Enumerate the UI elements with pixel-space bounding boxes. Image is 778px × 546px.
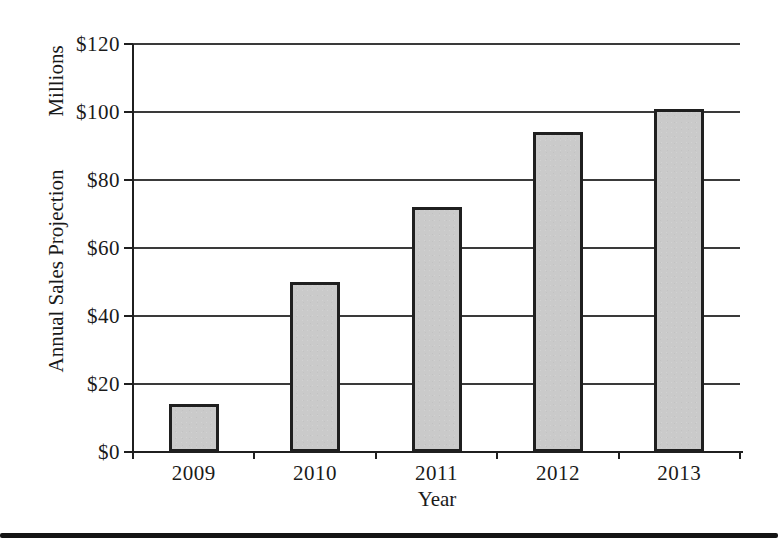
bar-2012 (533, 132, 583, 452)
x-category-label-2013: 2013 (619, 461, 739, 485)
y-axis-unit-label: Millions (44, 45, 69, 116)
y-tick-label: $20 (34, 373, 120, 395)
x-axis-tick (618, 452, 620, 459)
gridline-100 (133, 111, 740, 113)
y-axis-line (132, 44, 134, 452)
bar-2013 (654, 109, 704, 452)
y-axis-title: Annual Sales Projection (44, 170, 69, 373)
x-axis-tick (739, 452, 741, 459)
x-axis-tick (375, 452, 377, 459)
x-category-label-2011: 2011 (377, 461, 497, 485)
page-divider-rule (0, 533, 778, 538)
x-category-label-2012: 2012 (498, 461, 618, 485)
x-axis-tick (132, 452, 134, 459)
x-axis-tick (496, 452, 498, 459)
bar-chart-figure: $0$20$40$60$80$100$120200920102011201220… (0, 0, 778, 546)
gridline-80 (133, 179, 740, 181)
bar-2011 (412, 207, 462, 452)
plot-area: $0$20$40$60$80$100$120200920102011201220… (0, 0, 778, 546)
gridline-120 (133, 43, 740, 45)
bar-2009 (169, 404, 219, 452)
x-axis-tick (253, 452, 255, 459)
x-category-label-2009: 2009 (134, 461, 254, 485)
y-tick-label: $0 (34, 441, 120, 463)
x-axis-title: Year (376, 487, 498, 512)
bar-2010 (290, 282, 340, 452)
x-category-label-2010: 2010 (255, 461, 375, 485)
